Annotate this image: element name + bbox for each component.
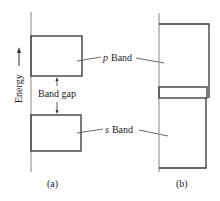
s-band-label: sBand [105, 124, 133, 135]
panel-a: Energy Band gap [13, 12, 82, 172]
panel-b [159, 13, 209, 172]
caption-a: (a) [47, 178, 58, 190]
caption-b: (b) [176, 178, 188, 190]
p-band-box-a [31, 36, 82, 76]
energy-arrow-icon [17, 47, 21, 66]
band-diagram: Energy Band gap pBand sBand (a) (b) [0, 0, 220, 201]
band-gap-label: Band gap [38, 88, 76, 99]
energy-axis-label: Energy [13, 74, 24, 103]
s-band-label-group: sBand [77, 124, 168, 136]
s-band-leader-right [139, 130, 168, 136]
p-band-leader-right [136, 58, 164, 63]
p-band-label-group: pBand [77, 52, 164, 63]
s-band-box-a [31, 115, 81, 151]
p-band-label: pBand [102, 52, 132, 63]
band-overlap-region [159, 87, 207, 98]
band-gap-arrow-down-icon [56, 102, 59, 114]
band-gap-arrow-up-icon [56, 77, 59, 86]
p-band-leader-left [77, 57, 101, 61]
s-band-box-b [159, 98, 206, 168]
